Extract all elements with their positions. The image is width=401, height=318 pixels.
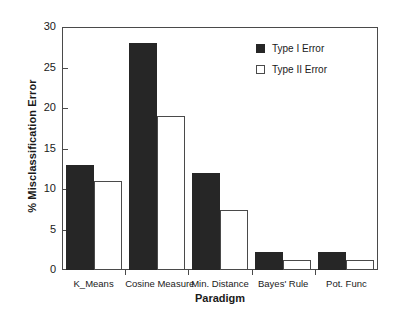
y-tick-label: 25	[22, 62, 56, 73]
x-tick-mark	[125, 270, 126, 275]
x-tick-label: Min. Distance	[188, 278, 251, 289]
bar-type2	[94, 181, 122, 270]
bar-type1	[192, 173, 220, 270]
bar-type1	[318, 252, 346, 270]
bar-type1	[255, 252, 283, 270]
y-tick-label: 30	[22, 21, 56, 32]
y-tick-label: 0	[22, 264, 56, 275]
bar-type2	[346, 260, 374, 270]
x-tick-label: Pot. Func	[315, 278, 378, 289]
bar-type2	[220, 210, 248, 270]
x-tick-label: Cosine Measure	[125, 278, 188, 289]
y-tick-label: 15	[22, 143, 56, 154]
x-tick-mark	[188, 270, 189, 275]
y-tick-mark	[62, 108, 68, 109]
legend-item: Type I Error	[256, 40, 327, 57]
bar-type1	[66, 165, 94, 270]
x-tick-mark	[252, 270, 253, 275]
x-axis-title: Paradigm	[62, 292, 378, 304]
y-tick-label: 10	[22, 183, 56, 194]
x-tick-label: K_Means	[62, 278, 125, 289]
bar-type1	[129, 43, 157, 270]
y-tick-label: 5	[22, 224, 56, 235]
legend-swatch-open	[256, 65, 265, 74]
y-tick-mark	[62, 68, 68, 69]
legend-item: Type II Error	[256, 61, 327, 78]
x-tick-mark	[315, 270, 316, 275]
chart-legend: Type I ErrorType II Error	[256, 40, 327, 82]
x-tick-label: Bayes' Rule	[252, 278, 315, 289]
bar-type2	[157, 116, 185, 270]
legend-label: Type II Error	[272, 64, 327, 75]
y-tick-label: 20	[22, 102, 56, 113]
bar-type2	[283, 260, 311, 270]
legend-swatch-filled	[256, 44, 265, 53]
legend-label: Type I Error	[272, 43, 324, 54]
y-tick-mark	[62, 149, 68, 150]
bar-chart: % Misclassification Error 051015202530 K…	[0, 0, 401, 318]
